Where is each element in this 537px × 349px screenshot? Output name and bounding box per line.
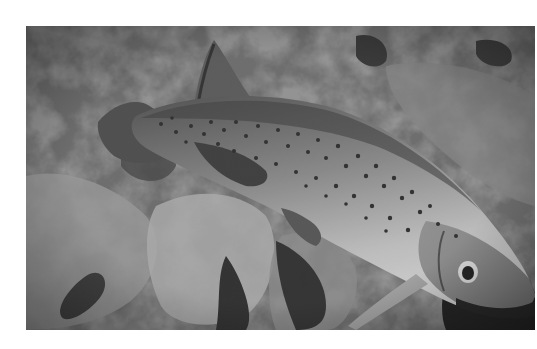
trout-photo-illustration [26, 26, 535, 330]
photograph: Grayscale underwater photograph of a spo… [26, 26, 535, 330]
